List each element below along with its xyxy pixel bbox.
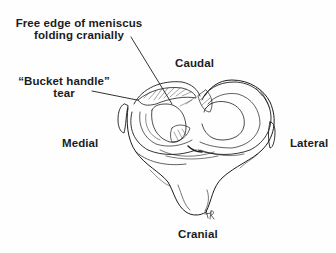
diagram-canvas: Free edge of meniscus folding cranially …: [0, 0, 336, 253]
label-lateral: Lateral: [290, 137, 328, 149]
medial-meniscus: [118, 82, 200, 155]
label-free-edge-line1: Free edge of meniscus: [14, 17, 144, 29]
label-bucket-handle-line2: tear: [12, 87, 116, 99]
label-cranial: Cranial: [178, 228, 218, 240]
label-bucket-handle-line1: “Bucket handle”: [12, 75, 116, 87]
label-free-edge-line2: folding cranially: [14, 29, 144, 41]
artist-signature: [205, 210, 214, 219]
label-medial: Medial: [62, 137, 98, 149]
leader-line-free-edge: [131, 37, 172, 104]
tibial-plateau-outline: [127, 80, 274, 215]
label-caudal: Caudal: [175, 57, 214, 69]
